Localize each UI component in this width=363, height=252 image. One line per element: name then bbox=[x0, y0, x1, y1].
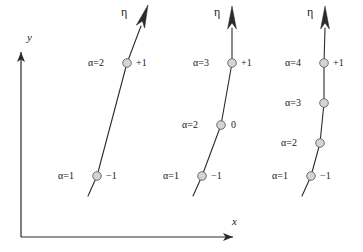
node-marker bbox=[93, 172, 102, 181]
group-2-eta-arrowhead bbox=[228, 6, 237, 29]
node-value-label: −1 bbox=[320, 171, 331, 181]
node-alpha-label: α=2 bbox=[88, 58, 104, 68]
node-marker bbox=[198, 172, 207, 181]
node-marker bbox=[320, 99, 329, 108]
group-2-eta-label: η bbox=[214, 6, 220, 18]
group-3-eta-label: η bbox=[307, 6, 313, 18]
node-value-label: +1 bbox=[136, 58, 147, 68]
node-alpha-label: α=3 bbox=[285, 98, 301, 108]
node-marker bbox=[217, 121, 226, 130]
group-3-eta-arrowhead bbox=[321, 6, 330, 29]
node-marker bbox=[307, 172, 316, 181]
x-axis-label: x bbox=[232, 216, 237, 227]
group-1-eta-arrowhead bbox=[136, 5, 148, 28]
node-marker bbox=[228, 59, 237, 68]
node-marker bbox=[123, 59, 132, 68]
group-1-eta-label: η bbox=[121, 6, 127, 18]
node-alpha-label: α=3 bbox=[193, 58, 209, 68]
node-value-label: 0 bbox=[231, 120, 236, 130]
coordinate-axes bbox=[21, 52, 233, 237]
node-alpha-label: α=4 bbox=[285, 58, 301, 68]
node-marker bbox=[316, 139, 325, 148]
node-value-label: −1 bbox=[106, 171, 117, 181]
y-axis-label: y bbox=[27, 32, 32, 43]
node-alpha-label: α=2 bbox=[182, 120, 198, 130]
node-alpha-label: α=2 bbox=[281, 138, 297, 148]
node-alpha-label: α=1 bbox=[163, 171, 179, 181]
node-alpha-label: α=1 bbox=[58, 171, 74, 181]
node-value-label: +1 bbox=[333, 58, 344, 68]
node-value-label: +1 bbox=[241, 58, 252, 68]
node-value-label: −1 bbox=[211, 171, 222, 181]
node-marker bbox=[320, 59, 329, 68]
node-markers bbox=[93, 59, 329, 181]
node-alpha-label: α=1 bbox=[272, 171, 288, 181]
diagram-canvas: y x ηα=2+1α=1−1ηα=3+1α=20α=1−1ηα=4+1α=3α… bbox=[0, 0, 363, 252]
